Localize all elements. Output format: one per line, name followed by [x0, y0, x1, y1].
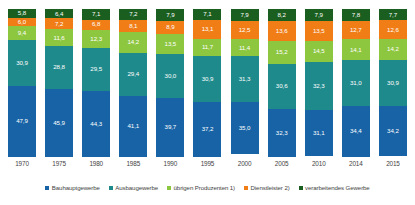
bar-segment-value: 29,5	[90, 66, 102, 72]
bar-segment: 8,1	[119, 20, 147, 32]
legend-label: verarbeitendes Gewerbe	[305, 184, 370, 191]
bar-segment-value: 5,8	[18, 10, 26, 16]
bar-segment: 15,2	[268, 41, 296, 63]
bar-segment: 5,8	[8, 9, 36, 18]
bar-segment-value: 44,3	[90, 121, 102, 127]
bar-column: 7,712,614,230,934,2	[379, 9, 407, 157]
legend-label: Bauhauptgewerbe	[52, 184, 100, 191]
bar-segment: 34,4	[342, 106, 370, 157]
bar-segment: 7,1	[82, 9, 110, 20]
bar-segment: 12,7	[342, 21, 370, 40]
bar-segment-value: 13,5	[313, 27, 325, 33]
legend-item[interactable]: Ausbaugewerbe	[109, 184, 158, 191]
bar-segment-value: 13,1	[202, 26, 214, 32]
bar-segment: 13,5	[305, 21, 333, 41]
bar-column: 5,86,09,430,947,9	[8, 9, 36, 157]
plot-area: 5,86,09,430,947,96,47,211,628,845,97,16,…	[8, 9, 407, 157]
legend-item[interactable]: übrigen Produzenten 1)	[167, 184, 235, 191]
bar-segment: 29,4	[119, 53, 147, 97]
bar-segment-value: 7,1	[203, 11, 211, 17]
x-axis-tick-label: 1995	[193, 160, 221, 167]
bar-segment-value: 11,6	[54, 34, 65, 40]
x-axis-tick-label: 1990	[156, 160, 184, 167]
bar-segment-value: 30,0	[165, 73, 177, 79]
bar-segment: 30,6	[268, 64, 296, 109]
bar-column: 7,113,111,730,937,2	[193, 9, 221, 157]
legend-swatch-icon	[167, 186, 171, 190]
bar-column: 8,213,615,230,632,3	[268, 9, 296, 157]
bar-column: 7,812,714,131,034,4	[342, 9, 370, 157]
bar-segment-value: 34,4	[350, 128, 362, 134]
bar-segment: 11,7	[193, 39, 221, 56]
bar-segment-value: 15,2	[276, 49, 288, 55]
bar-segment: 12,3	[82, 30, 110, 48]
bar-segment-value: 7,8	[352, 11, 360, 17]
bar-segment: 37,2	[193, 102, 221, 157]
x-axis-tick-labels: 1970197519801985199019952000200520102014…	[8, 160, 407, 167]
x-axis-tick-label: 2014	[342, 160, 370, 167]
bar-segment: 7,9	[231, 9, 259, 21]
chart-legend: BauhauptgewerbeAusbaugewerbeübrigen Prod…	[8, 184, 407, 191]
bar-segment: 35,0	[231, 102, 259, 154]
x-axis-tick-label: 1970	[8, 160, 36, 167]
x-axis-tick-label: 2000	[231, 160, 259, 167]
x-axis-tick-label: 2010	[305, 160, 333, 167]
bar-segment: 32,3	[268, 109, 296, 157]
legend-item[interactable]: Bauhauptgewerbe	[45, 184, 99, 191]
bar-segment: 31,3	[231, 56, 259, 102]
bar-segment-value: 7,9	[315, 12, 323, 18]
bar-column: 7,16,812,329,544,3	[82, 9, 110, 157]
bar-segment: 47,9	[8, 86, 36, 157]
bar-segment-value: 30,6	[276, 83, 288, 89]
bar-segment: 11,4	[231, 39, 259, 56]
bar-segment-value: 47,9	[16, 118, 28, 124]
stacked-bar-chart: 5,86,09,430,947,96,47,211,628,845,97,16,…	[0, 0, 415, 205]
bar-column: 7,98,913,530,039,7	[156, 9, 184, 157]
bar-segment: 7,1	[193, 9, 221, 20]
bar-segment-value: 13,6	[276, 28, 288, 34]
bar-segment-value: 32,3	[276, 130, 288, 136]
x-axis-tick-label: 1980	[82, 160, 110, 167]
bar-segment: 6,8	[82, 20, 110, 30]
x-axis-tick-label: 1985	[119, 160, 147, 167]
bar-segment: 13,5	[156, 34, 184, 54]
bar-segment: 13,1	[193, 20, 221, 39]
bar-segment: 30,9	[379, 60, 407, 106]
bar-segment-value: 6,0	[18, 19, 26, 25]
bar-segment-value: 31,1	[313, 130, 325, 136]
bar-column: 7,913,514,532,331,1	[305, 9, 333, 157]
bar-segment-value: 14,5	[313, 48, 325, 54]
bar-segment: 6,0	[8, 18, 36, 27]
bar-segment-value: 8,1	[129, 22, 137, 28]
legend-swatch-icon	[244, 186, 248, 190]
legend-item[interactable]: Dienstleister 2)	[244, 184, 290, 191]
bar-segment-value: 11,4	[239, 44, 250, 50]
bar-segment-value: 14,1	[350, 46, 362, 52]
bar-segment: 30,9	[8, 40, 36, 86]
bar-column: 7,28,114,229,441,1	[119, 9, 147, 157]
bar-segment: 12,5	[231, 21, 259, 40]
bar-segment: 13,6	[268, 21, 296, 41]
bar-column: 7,912,511,431,335,0	[231, 9, 259, 157]
bar-segment-value: 14,2	[387, 46, 399, 52]
bar-segment: 7,8	[342, 9, 370, 21]
bar-segment: 7,2	[45, 18, 73, 29]
bar-segment-value: 28,8	[53, 64, 65, 70]
bar-segment-value: 30,9	[16, 60, 28, 66]
bar-segment-value: 45,9	[53, 120, 65, 126]
bar-segment: 6,4	[45, 9, 73, 18]
bar-segment-value: 12,3	[90, 35, 102, 41]
bar-segment-value: 13,5	[165, 41, 177, 47]
bar-segment-value: 8,2	[278, 12, 286, 18]
x-axis-tick-label: 2015	[379, 160, 407, 167]
bar-segment: 14,5	[305, 41, 333, 62]
bar-segment-value: 41,1	[127, 123, 139, 129]
legend-item[interactable]: verarbeitendes Gewerbe	[299, 184, 370, 191]
bar-segment: 30,9	[193, 56, 221, 102]
bar-segment: 7,2	[119, 9, 147, 20]
bar-segment-value: 8,9	[166, 24, 174, 30]
bar-segment-value: 12,6	[387, 26, 399, 32]
bar-segment-value: 7,9	[240, 12, 248, 18]
bar-segment-value: 31,3	[239, 76, 251, 82]
bar-segment: 34,2	[379, 106, 407, 157]
